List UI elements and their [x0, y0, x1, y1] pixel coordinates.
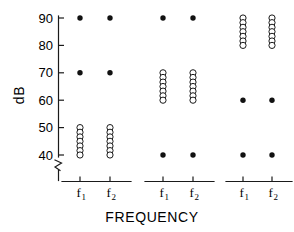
- data-point-open: [190, 97, 196, 103]
- y-tick-label: 50: [39, 120, 53, 135]
- x-tick-label-subscript: 2: [112, 192, 117, 202]
- y-tick-label: 90: [39, 11, 53, 26]
- data-point-filled: [107, 70, 112, 75]
- data-point-filled: [160, 152, 165, 157]
- y-tick-label: 80: [39, 38, 53, 53]
- scatter-chart-figure: 405060708090 dB f1f2f1f2f1f2 FREQUENCY: [0, 0, 294, 232]
- data-point-filled: [240, 98, 245, 103]
- data-point-filled: [107, 15, 112, 20]
- data-point-open: [160, 97, 166, 103]
- x-tick-label-subscript: 1: [165, 192, 170, 202]
- data-point-filled: [190, 15, 195, 20]
- y-tick-label: 70: [39, 65, 53, 80]
- data-point-open: [269, 42, 275, 48]
- panel-group: f1f2f1f2f1f2: [62, 15, 292, 202]
- x-tick-label-subscript: 1: [82, 192, 87, 202]
- chart-panel: f1f2: [62, 15, 131, 202]
- x-tick-label-subscript: 2: [195, 192, 200, 202]
- data-point-filled: [269, 152, 274, 157]
- y-axis-break-icon: [55, 160, 62, 171]
- y-axis: [55, 16, 62, 181]
- y-axis-title: dB: [11, 86, 27, 104]
- data-point-filled: [269, 98, 274, 103]
- data-point-open: [77, 152, 83, 158]
- data-point-filled: [190, 152, 195, 157]
- x-axis-title: FREQUENCY: [105, 209, 198, 225]
- x-tick-label-subscript: 2: [274, 192, 279, 202]
- data-point-filled: [77, 70, 82, 75]
- y-tick-label: 40: [39, 148, 53, 163]
- x-tick-label-subscript: 1: [245, 192, 250, 202]
- data-point-filled: [160, 15, 165, 20]
- chart-canvas: 405060708090 dB f1f2f1f2f1f2 FREQUENCY: [0, 0, 294, 232]
- data-point-open: [240, 42, 246, 48]
- data-point-filled: [77, 15, 82, 20]
- chart-panel: f1f2: [226, 15, 292, 202]
- data-point-filled: [240, 152, 245, 157]
- data-point-open: [107, 152, 113, 158]
- y-tick-label: 60: [39, 93, 53, 108]
- chart-panel: f1f2: [145, 15, 214, 202]
- y-tick-group: 405060708090: [39, 11, 64, 163]
